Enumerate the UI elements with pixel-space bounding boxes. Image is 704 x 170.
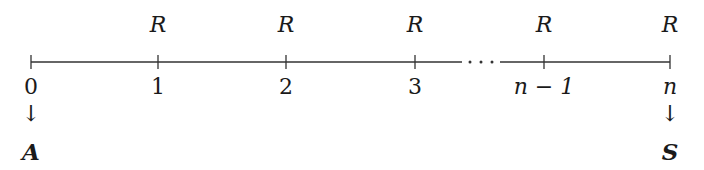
payment-label: R <box>150 14 167 36</box>
tick-label-n: n <box>663 76 677 98</box>
payment-label: R <box>407 14 424 36</box>
ellipsis-dot <box>469 61 472 64</box>
tick-label-n-minus-1: n − 1 <box>514 76 575 98</box>
tick-label-2: 2 <box>279 76 293 98</box>
tick-label-3: 3 <box>408 76 422 98</box>
present-value-label: A <box>22 140 40 163</box>
payment-label: R <box>278 14 295 36</box>
payment-label: R <box>536 14 553 36</box>
timeline-axis <box>0 0 704 170</box>
future-value-label: S <box>662 140 679 163</box>
tick-label-1: 1 <box>151 76 165 98</box>
tick-label-0: 0 <box>24 76 38 98</box>
ellipsis-dot <box>491 61 494 64</box>
down-arrow-icon: ↓ <box>22 103 40 125</box>
payment-label: R <box>662 14 679 36</box>
ellipsis-dot <box>480 61 483 64</box>
down-arrow-icon: ↓ <box>661 103 679 125</box>
